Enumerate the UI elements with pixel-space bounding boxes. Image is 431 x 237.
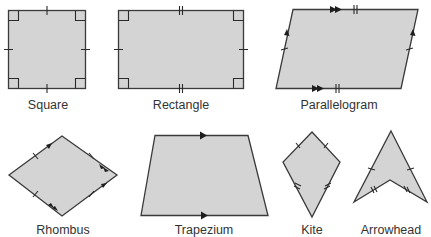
rhombus-shape	[9, 136, 117, 216]
kite-label: Kite	[301, 223, 323, 237]
arrowhead-shape	[354, 131, 427, 202]
rectangle-label: Rectangle	[153, 98, 209, 112]
rectangle-shape	[114, 6, 248, 93]
trapezium-label: Trapezium	[175, 223, 234, 237]
quadrilaterals-diagram	[0, 0, 431, 237]
square-label: Square	[28, 98, 68, 112]
parallelogram-label: Parallelogram	[300, 98, 377, 112]
trapezium-shape	[141, 132, 268, 220]
rhombus-label: Rhombus	[36, 223, 90, 237]
kite-shape	[283, 132, 340, 217]
arrowhead-label: Arrowhead	[361, 223, 421, 237]
parallelogram-shape	[276, 5, 418, 93]
square-shape	[4, 6, 90, 93]
